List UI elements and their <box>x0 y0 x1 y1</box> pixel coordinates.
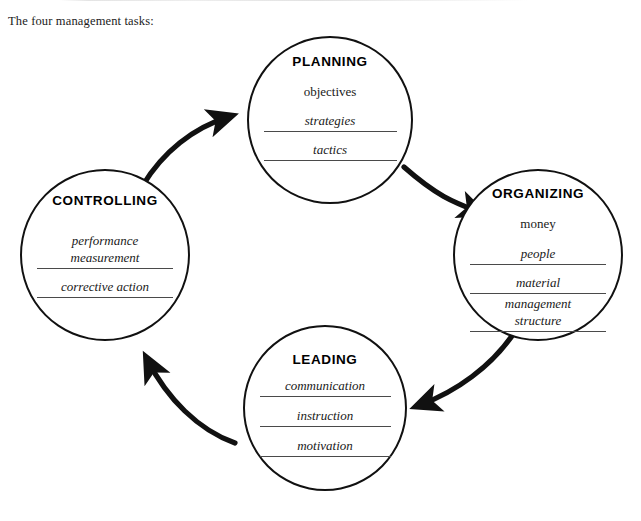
node-planning-item-rule <box>264 160 397 161</box>
node-organizing-item-rule <box>470 264 606 265</box>
node-leading-item-rule <box>260 456 391 457</box>
node-planning-item-rule <box>264 131 397 132</box>
node-planning: PLANNINGobjectivesstrategiestactics <box>247 36 413 204</box>
node-organizing-title: ORGANIZING <box>455 186 621 201</box>
node-planning-content: PLANNINGobjectivesstrategiestactics <box>249 54 411 161</box>
node-leading-content: LEADINGcommunicationinstructionmotivatio… <box>245 352 405 457</box>
node-planning-item-label: objectives <box>249 83 411 100</box>
node-leading-item-label: motivation <box>245 437 405 454</box>
node-leading-item: motivation <box>245 437 405 457</box>
arrow-leading-to-controlling <box>148 361 235 443</box>
node-controlling-item-rule <box>37 268 173 269</box>
node-controlling: CONTROLLINGperformancemeasurementcorrect… <box>20 169 190 341</box>
node-leading-item: instruction <box>245 407 405 427</box>
node-organizing-item: managementstructure <box>455 295 621 332</box>
node-organizing-item: money <box>455 215 621 232</box>
node-planning-item: strategies <box>249 112 411 132</box>
node-organizing-item-label: managementstructure <box>455 295 621 329</box>
node-controlling-item: performancemeasurement <box>22 232 188 269</box>
node-organizing-item: material <box>455 274 621 294</box>
diagram-canvas: The four management tasks: PLANNINGobjec… <box>0 0 641 521</box>
node-organizing-content: ORGANIZINGmoneypeoplematerialmanagements… <box>455 186 621 332</box>
node-controlling-item-rule <box>37 297 173 298</box>
node-organizing-item-label: money <box>455 215 621 232</box>
node-leading-item-label: instruction <box>245 407 405 424</box>
node-leading: LEADINGcommunicationinstructionmotivatio… <box>243 325 407 491</box>
node-leading-item-rule <box>260 396 391 397</box>
node-controlling-item-label: corrective action <box>22 278 188 295</box>
node-controlling-item-label: performancemeasurement <box>22 232 188 266</box>
node-controlling-content: CONTROLLINGperformancemeasurementcorrect… <box>22 193 188 298</box>
node-organizing-item-rule <box>470 331 606 332</box>
node-organizing-item-label: material <box>455 274 621 291</box>
node-controlling-item: corrective action <box>22 278 188 298</box>
node-organizing-item-rule <box>470 293 606 294</box>
node-leading-item-label: communication <box>245 377 405 394</box>
node-leading-item: communication <box>245 377 405 397</box>
node-planning-title: PLANNING <box>249 54 411 69</box>
arrow-organizing-to-leading <box>420 330 516 405</box>
node-planning-item-label: tactics <box>249 141 411 158</box>
arrow-controlling-to-planning <box>143 117 228 185</box>
node-leading-item-rule <box>260 426 391 427</box>
node-planning-item-label: strategies <box>249 112 411 129</box>
node-controlling-title: CONTROLLING <box>22 193 188 208</box>
node-organizing-item: people <box>455 245 621 265</box>
node-organizing: ORGANIZINGmoneypeoplematerialmanagements… <box>453 169 623 341</box>
node-planning-item: objectives <box>249 83 411 100</box>
node-organizing-item-label: people <box>455 245 621 262</box>
node-planning-item: tactics <box>249 141 411 161</box>
node-leading-title: LEADING <box>245 352 405 367</box>
